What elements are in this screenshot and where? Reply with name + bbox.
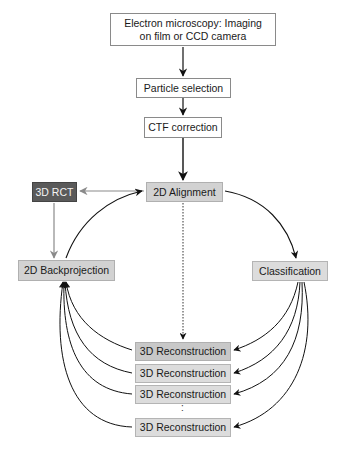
node-3d-reconstruction-1: 3D Reconstruction bbox=[135, 342, 231, 361]
node-2d-backprojection: 2D Backprojection bbox=[18, 260, 115, 281]
edge-backproj-align bbox=[66, 191, 142, 258]
node-label: 2D Alignment bbox=[153, 186, 215, 199]
node-label: Classification bbox=[259, 265, 321, 278]
edge-recon-backproj-2 bbox=[65, 282, 132, 373]
node-3d-reconstruction-4: 3D Reconstruction bbox=[135, 418, 231, 437]
node-ctf-correction: CTF correction bbox=[144, 117, 222, 138]
node-em-line1: Electron microscopy: Imaging bbox=[124, 17, 262, 30]
node-label: 3D Reconstruction bbox=[140, 421, 226, 434]
node-label: 3D Reconstruction bbox=[140, 388, 226, 401]
node-em-line2: on film or CCD camera bbox=[140, 30, 247, 43]
edge-classif-recon-3 bbox=[234, 282, 302, 394]
node-label: Particle selection bbox=[144, 82, 223, 95]
node-label: 2D Backprojection bbox=[24, 264, 109, 277]
ellipsis-vertical: : bbox=[181, 406, 184, 410]
node-label: CTF correction bbox=[148, 121, 217, 134]
edge-classif-recon-4 bbox=[234, 282, 308, 427]
node-label: 3D Reconstruction bbox=[140, 345, 226, 358]
node-label: 3D Reconstruction bbox=[140, 367, 226, 380]
node-electron-microscopy: Electron microscopy: Imaging on film or … bbox=[110, 13, 276, 46]
node-3d-reconstruction-2: 3D Reconstruction bbox=[135, 364, 231, 383]
node-3d-rct: 3D RCT bbox=[32, 182, 77, 202]
edge-classif-recon-2 bbox=[234, 282, 300, 373]
node-classification: Classification bbox=[252, 261, 328, 281]
edge-align-classif bbox=[225, 191, 296, 258]
node-particle-selection: Particle selection bbox=[136, 78, 231, 98]
ellipsis-text: : bbox=[181, 402, 184, 413]
edge-recon-backproj-1 bbox=[66, 282, 132, 350]
edge-classif-recon-1 bbox=[234, 282, 298, 350]
edge-recon-backproj-3 bbox=[64, 282, 132, 394]
edge-recon-backproj-4 bbox=[60, 282, 132, 427]
node-2d-alignment: 2D Alignment bbox=[146, 182, 223, 202]
node-label: 3D RCT bbox=[36, 186, 74, 199]
